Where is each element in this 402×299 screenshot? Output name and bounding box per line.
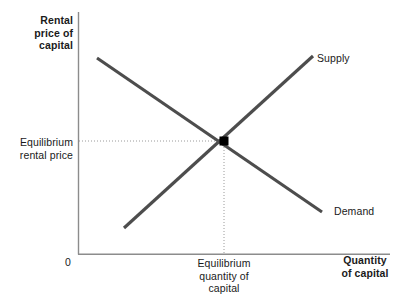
x-axis-title: Quantity of capital	[329, 254, 401, 279]
supply-curve-label: Supply	[317, 52, 377, 65]
equilibrium-rental-price-label: Equilibrium rental price	[0, 136, 73, 161]
supply-demand-chart: Rental price of capital Equilibrium rent…	[0, 0, 402, 299]
y-axis-title: Rental price of capital	[0, 14, 73, 52]
demand-curve-label: Demand	[334, 205, 394, 218]
equilibrium-quantity-label: Equilibrium quantity of capital	[174, 257, 274, 295]
origin-label: 0	[61, 256, 75, 269]
equilibrium-point-marker	[220, 137, 229, 146]
demand-curve	[97, 58, 322, 212]
supply-curve	[124, 56, 313, 228]
